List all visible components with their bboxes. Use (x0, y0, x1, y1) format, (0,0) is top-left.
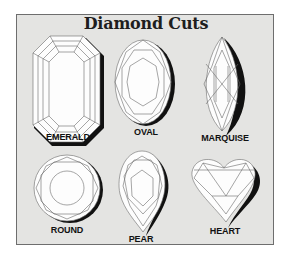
heart-cut-icon (192, 159, 260, 228)
marquise-cut-icon (204, 37, 245, 136)
round-cut-icon (34, 155, 103, 223)
oval-label: OVAL (134, 127, 158, 137)
emerald-cut-icon (33, 36, 104, 146)
oval-cut-icon (115, 40, 175, 126)
round-label: ROUND (51, 225, 84, 235)
heart-label: HEART (210, 226, 241, 236)
emerald-label: EMERALD (46, 132, 90, 142)
pear-label: PEAR (129, 234, 154, 244)
pear-cut-icon (119, 151, 169, 236)
marquise-label: MARQUISE (201, 133, 249, 143)
